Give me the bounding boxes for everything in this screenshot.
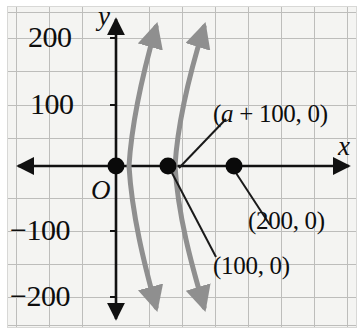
- y-tick-label-100: 100: [30, 87, 74, 121]
- callout-100: (100, 0): [213, 252, 290, 280]
- callout-a-prefix: (: [213, 100, 221, 127]
- y-tick-label-neg200: −200: [10, 279, 70, 313]
- origin-label: O: [91, 175, 111, 206]
- callout-a-variable: a: [221, 100, 233, 127]
- point-vertex-left: [160, 158, 177, 175]
- y-tick-label-200: 200: [28, 20, 72, 54]
- y-axis-label: y: [98, 6, 110, 32]
- figure-container: 200 100 −100 −200 O y x (a + 100, 0) (20…: [0, 0, 364, 334]
- point-vertex-right: [226, 158, 243, 175]
- callout-a-plus-100: (a + 100, 0): [213, 100, 328, 128]
- callout-a-suffix: + 100, 0): [233, 100, 327, 127]
- y-tick-label-neg100: −100: [10, 213, 70, 247]
- point-origin: [108, 158, 125, 175]
- callout-200: (200, 0): [248, 207, 325, 235]
- x-axis-label: x: [338, 131, 350, 162]
- graph-plate: 200 100 −100 −200 O y x (a + 100, 0) (20…: [7, 6, 357, 328]
